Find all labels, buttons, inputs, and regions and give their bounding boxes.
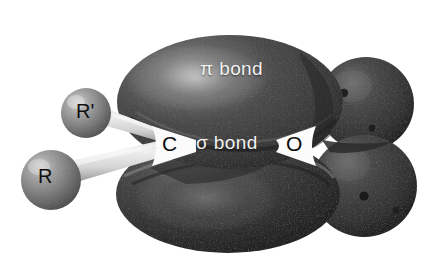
r-sphere <box>21 150 81 210</box>
orbital-diagram-figure: π bond σ bond C O R' R <box>0 0 442 269</box>
orbital-illustration <box>0 0 442 269</box>
r-prime-sphere <box>61 88 111 138</box>
pi-lobe-top-specular <box>124 44 268 112</box>
